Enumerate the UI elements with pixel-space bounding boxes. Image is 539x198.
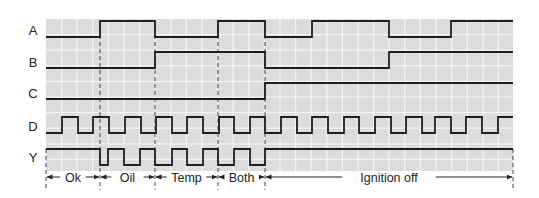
segment-label: Ok [65,171,82,185]
segment-label: Ignition off [360,171,418,185]
segment-oil: Oil [101,171,154,185]
timing-diagram: ABCDY OkOilTempBothIgnition off [0,0,539,198]
signal-label-y: Y [29,150,38,165]
signal-label-b: B [29,55,38,70]
segment-label: Temp [171,171,202,185]
segment-label: Both [229,171,255,185]
segment-annotations: OkOilTempBothIgnition off [47,171,512,185]
signal-labels: ABCDY [28,23,37,165]
segment-temp: Temp [156,171,217,185]
segment-ignition-off: Ignition off [266,171,512,185]
signal-label-a: A [29,23,38,38]
signal-label-d: D [28,119,37,134]
segment-both: Both [219,171,264,185]
segment-label: Oil [120,171,135,185]
segment-ok: Ok [47,171,99,185]
signal-label-c: C [28,86,37,101]
